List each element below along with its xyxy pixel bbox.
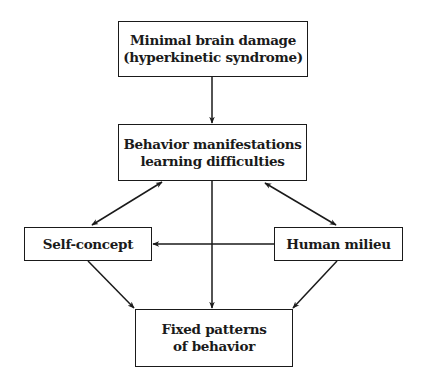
- node-fixed-patterns-of-behavior: Fixed patterns of behavior: [135, 309, 293, 367]
- node-label-line: Self-concept: [43, 236, 133, 253]
- edge-self-concept-to-fixed-patterns: [88, 261, 134, 308]
- node-self-concept: Self-concept: [24, 227, 152, 261]
- edge-behavior-human-milieu-bidirectional: [265, 183, 336, 225]
- edge-human-milieu-to-fixed-patterns: [293, 261, 337, 308]
- node-label-line: Minimal brain damage: [130, 32, 296, 49]
- node-label-line: Behavior manifestations: [123, 136, 301, 153]
- node-label-line: of behavior: [173, 338, 255, 355]
- node-label-line: learning difficulties: [140, 153, 284, 170]
- node-label-line: Fixed patterns: [161, 321, 266, 338]
- node-label-line: (hyperkinetic syndrome): [123, 49, 303, 66]
- node-minimal-brain-damage: Minimal brain damage (hyperkinetic syndr…: [118, 21, 308, 77]
- node-human-milieu: Human milieu: [274, 227, 403, 261]
- node-behavior-manifestations: Behavior manifestations learning difficu…: [118, 124, 307, 181]
- edge-behavior-self-concept-bidirectional: [92, 182, 162, 225]
- node-label-line: Human milieu: [286, 236, 391, 253]
- flowchart-diagram: Minimal brain damage (hyperkinetic syndr…: [0, 0, 424, 386]
